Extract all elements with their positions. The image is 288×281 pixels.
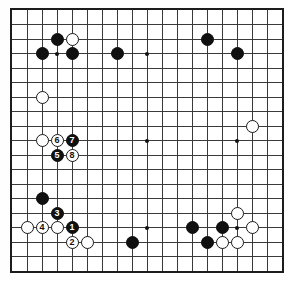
black-stone [201,236,214,249]
black-stone [186,221,199,234]
grid-line-vertical [162,10,163,271]
black-stone [231,47,244,60]
black-stone [216,221,229,234]
move-1-stone: 1 [66,221,79,234]
white-stone [36,134,49,147]
black-stone [126,236,139,249]
white-stone [246,120,259,133]
white-stone [81,236,94,249]
move-7-stone: 7 [66,134,79,147]
move-3-stone: 3 [51,207,64,220]
star-point [145,139,149,143]
black-stone [66,47,79,60]
move-2-stone: 2 [66,236,79,249]
black-stone [36,192,49,205]
black-stone [201,33,214,46]
move-8-stone: 8 [66,149,79,162]
star-point [145,52,149,56]
board-grid: 67583412 [12,10,282,271]
white-stone [216,236,229,249]
white-stone [231,207,244,220]
white-stone [51,221,64,234]
black-stone [36,47,49,60]
move-4-stone: 4 [36,221,49,234]
grid-line-horizontal [12,169,282,170]
white-stone [66,33,79,46]
white-stone [21,221,34,234]
star-point [235,226,239,230]
black-stone [51,33,64,46]
star-point [55,52,59,56]
white-stone [231,236,244,249]
grid-line-vertical [267,10,268,271]
black-stone [111,47,124,60]
star-point [145,226,149,230]
move-6-stone: 6 [51,134,64,147]
move-5-stone: 5 [51,149,64,162]
grid-line-horizontal [12,256,282,257]
grid-line-vertical [177,10,178,271]
grid-line-vertical [207,10,208,271]
star-point [235,139,239,143]
grid-line-horizontal [12,198,282,199]
white-stone [36,91,49,104]
grid-line-horizontal [12,184,282,185]
white-stone [246,221,259,234]
diagram-page: 67583412 [0,0,288,281]
go-board: 67583412 [10,8,284,273]
